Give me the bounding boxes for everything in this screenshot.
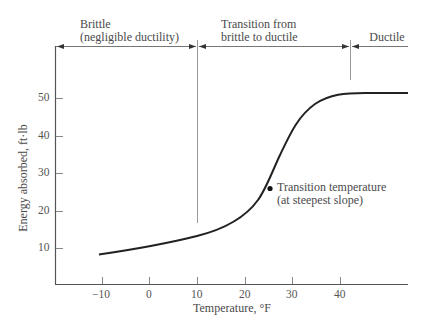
y-tick-label-50: 50: [38, 91, 50, 103]
y-ticks: [56, 99, 63, 249]
x-tick-label-40: 40: [334, 288, 346, 300]
x-tick-label-20: 20: [239, 288, 251, 300]
region-ductile-label: Ductile: [347, 31, 427, 44]
y-tick-label-40: 40: [38, 129, 50, 141]
region-transition-line2: brittle to ductile: [221, 31, 298, 44]
x-axis-title: Temperature, °F: [193, 302, 271, 315]
energy-curve: [99, 93, 408, 255]
x-tick-label-10: 10: [191, 288, 203, 300]
region-brittle-line2: (negligible ductility): [80, 31, 179, 44]
transition-point-marker: [267, 186, 272, 191]
y-tick-label-10: 10: [38, 241, 50, 253]
annotation-line2: (at steepest slope): [277, 194, 386, 207]
region-brittle-label: Brittle (negligible ductility): [80, 18, 179, 44]
x-ticks: [103, 277, 341, 284]
region-transition-label: Transition from brittle to ductile: [221, 18, 298, 44]
y-tick-label-20: 20: [38, 204, 50, 216]
x-tick-label--10: −10: [92, 288, 110, 300]
transition-annotation: Transition temperature (at steepest slop…: [277, 181, 386, 207]
x-tick-label-0: 0: [146, 288, 152, 300]
y-tick-label-30: 30: [38, 166, 50, 178]
region-ductile-line1: Ductile: [347, 31, 427, 44]
x-tick-label-30: 30: [286, 288, 298, 300]
region-dimension-lines: [56, 44, 408, 49]
chart-canvas: [0, 0, 429, 324]
y-axis-title: Energy absorbed, ft·lb: [17, 124, 30, 231]
